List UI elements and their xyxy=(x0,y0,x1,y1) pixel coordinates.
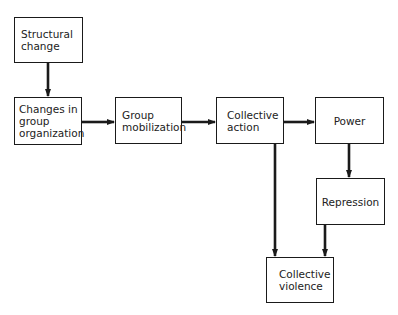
node-power: Power xyxy=(315,97,384,144)
node-structural-change: Structural change xyxy=(14,17,83,63)
node-repression: Repression xyxy=(316,178,385,225)
node-changes-in-group-organization: Changes in group organization xyxy=(14,97,82,145)
node-label: Changes in group organization xyxy=(19,103,84,139)
node-label: Repression xyxy=(322,196,379,208)
node-group-mobilization: Group mobilization xyxy=(115,97,182,144)
node-label: Structural change xyxy=(21,28,73,52)
node-label: Group mobilization xyxy=(122,109,186,133)
node-collective-action: Collective action xyxy=(216,97,284,144)
node-label: Power xyxy=(334,115,366,127)
node-collective-violence: Collective violence xyxy=(266,257,334,303)
node-label: Collective violence xyxy=(279,268,331,292)
node-label: Collective action xyxy=(227,109,279,133)
